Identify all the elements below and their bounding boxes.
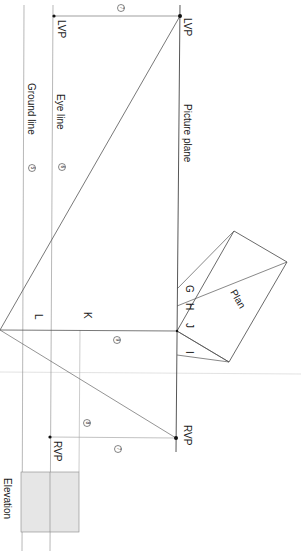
j-horizontal-line <box>0 330 177 331</box>
faint-guide-line <box>0 372 301 374</box>
label-lvp-left: LVP <box>56 20 67 38</box>
label-l: L <box>33 314 44 320</box>
label-elevation: Elevation <box>2 478 13 519</box>
rvp-dot-left <box>48 435 51 438</box>
projector-i <box>177 355 229 362</box>
step-marker-9: 9 <box>114 337 121 344</box>
svg-text:8: 8 <box>85 422 91 425</box>
lvp-dot-right <box>178 14 182 18</box>
label-lvp-right: LVP <box>182 18 193 36</box>
step-marker-6: 6 <box>59 164 66 171</box>
label-plan: Plan <box>228 288 248 311</box>
rvp-dot-right <box>174 436 178 440</box>
label-j: J <box>184 323 195 328</box>
svg-text:5: 5 <box>30 167 36 170</box>
svg-text:7: 7 <box>116 448 122 451</box>
label-picture-plane: Picture plane <box>182 104 193 163</box>
label-k: K <box>82 312 93 319</box>
step-marker-7-top: 7 <box>118 5 125 12</box>
svg-text:6: 6 <box>60 166 66 169</box>
picture-plane-line <box>176 5 180 452</box>
label-h: H <box>184 303 195 310</box>
step-marker-7-bottom: 7 <box>115 446 122 453</box>
svg-text:9: 9 <box>115 339 121 342</box>
label-eye-line: Eye line <box>55 94 66 130</box>
rvp-connector <box>50 437 176 438</box>
eye-line <box>50 5 53 551</box>
step-marker-8: 8 <box>84 420 91 427</box>
lvp-dot-left <box>52 14 55 17</box>
perspective-diagram: LVP LVP Picture plane Eye line Ground li… <box>0 0 301 551</box>
svg-text:7: 7 <box>119 7 125 10</box>
label-rvp-left: RVP <box>52 441 63 462</box>
lvp-diagonal <box>0 16 180 330</box>
label-rvp-right: RVP <box>182 425 193 446</box>
k-projection-line <box>79 330 80 472</box>
step-marker-5: 5 <box>29 165 36 172</box>
label-ground-line: Ground line <box>26 83 37 135</box>
projector-j <box>177 331 229 362</box>
ground-line <box>22 5 24 551</box>
j-dot <box>176 330 178 332</box>
label-i: I <box>184 351 195 354</box>
label-g: G <box>184 285 195 293</box>
